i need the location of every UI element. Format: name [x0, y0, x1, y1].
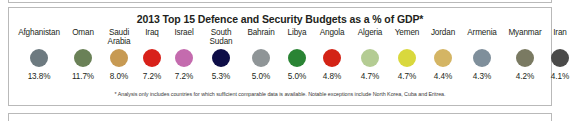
- country-name-label: Bahrain: [247, 28, 274, 47]
- country-value-dot: [252, 49, 270, 67]
- country-value-dot: [361, 49, 379, 67]
- country-column[interactable]: Myanmar4.2%: [503, 28, 547, 82]
- country-value-label: 4.1%: [551, 72, 569, 82]
- panel-below-sliver: [8, 113, 552, 121]
- country-value-dot: [398, 49, 416, 67]
- country-value-label: 13.8%: [28, 72, 51, 82]
- country-name-label: Libya: [288, 28, 307, 47]
- country-dot-slot: [74, 47, 92, 69]
- country-value-label: 11.7%: [72, 72, 94, 82]
- country-column[interactable]: Oman11.7%: [65, 28, 101, 82]
- country-name-label: Armenia: [467, 28, 496, 47]
- country-dot-slot: [398, 47, 416, 69]
- country-name-label: Angola: [320, 28, 345, 47]
- country-dot-slot: [212, 47, 230, 69]
- country-column[interactable]: South Sudan5.3%: [201, 28, 241, 82]
- country-value-label: 5.0%: [288, 72, 306, 82]
- country-name-label: Jordan: [431, 28, 455, 47]
- footnote-text: * Analysis only includes countries for w…: [9, 91, 551, 98]
- country-value-dot: [212, 49, 230, 67]
- country-column[interactable]: Algeria4.7%: [351, 28, 389, 82]
- country-name-label: Iraq: [145, 28, 159, 47]
- panel-above-sliver: [8, 0, 552, 3]
- country-value-label: 4.7%: [361, 72, 379, 82]
- country-value-label: 8.0%: [110, 72, 128, 82]
- country-column[interactable]: Jordan4.4%: [425, 28, 461, 82]
- country-dot-slot: [252, 47, 270, 69]
- country-dot-slot: [361, 47, 379, 69]
- defence-budgets-panel: 2013 Top 15 Defence and Security Budgets…: [8, 7, 552, 106]
- country-name-label: South Sudan: [201, 28, 241, 47]
- country-value-label: 5.3%: [212, 72, 230, 82]
- country-dot-slot: [143, 47, 161, 69]
- country-value-dot: [143, 49, 161, 67]
- country-value-dot: [516, 49, 534, 67]
- country-column[interactable]: Armenia4.3%: [461, 28, 503, 82]
- country-column[interactable]: Yemen4.7%: [389, 28, 425, 82]
- country-name-label: Myanmar: [508, 28, 541, 47]
- country-dot-slot: [551, 47, 569, 69]
- country-column[interactable]: Afghanistan13.8%: [13, 28, 65, 82]
- country-name-label: Saudi Arabia: [101, 28, 137, 47]
- country-value-label: 7.2%: [175, 72, 193, 82]
- page-title: 2013 Top 15 Defence and Security Budgets…: [9, 13, 551, 25]
- country-dot-slot: [110, 47, 128, 69]
- country-dot-slot: [473, 47, 491, 69]
- country-dot-slot: [175, 47, 193, 69]
- country-value-label: 4.8%: [323, 72, 341, 82]
- country-column[interactable]: Iran4.1%: [547, 28, 573, 82]
- country-dot-slot: [323, 47, 341, 69]
- country-name-label: Iran: [553, 28, 567, 47]
- country-value-label: 5.0%: [252, 72, 270, 82]
- country-value-label: 4.3%: [473, 72, 491, 82]
- country-value-dot: [175, 49, 193, 67]
- country-column[interactable]: Iraq7.2%: [137, 28, 167, 82]
- country-column[interactable]: Israel7.2%: [167, 28, 201, 82]
- country-name-label: Yemen: [395, 28, 419, 47]
- country-value-dot: [288, 49, 306, 67]
- country-value-dot: [30, 49, 48, 67]
- country-value-dot: [473, 49, 491, 67]
- country-columns: Afghanistan13.8%Oman11.7%Saudi Arabia8.0…: [13, 28, 549, 82]
- country-column[interactable]: Angola4.8%: [313, 28, 351, 82]
- country-value-dot: [434, 49, 452, 67]
- country-column[interactable]: Libya5.0%: [281, 28, 313, 82]
- country-value-label: 4.2%: [516, 72, 534, 82]
- country-dot-slot: [516, 47, 534, 69]
- country-value-dot: [551, 49, 569, 67]
- country-name-label: Israel: [174, 28, 193, 47]
- country-dot-slot: [30, 47, 48, 69]
- country-name-label: Oman: [72, 28, 94, 47]
- country-value-dot: [110, 49, 128, 67]
- country-column[interactable]: Bahrain5.0%: [241, 28, 281, 82]
- country-value-label: 4.7%: [398, 72, 416, 82]
- country-value-dot: [323, 49, 341, 67]
- country-column[interactable]: Saudi Arabia8.0%: [101, 28, 137, 82]
- country-value-dot: [74, 49, 92, 67]
- country-value-label: 4.4%: [434, 72, 452, 82]
- country-value-label: 7.2%: [143, 72, 161, 82]
- country-dot-slot: [434, 47, 452, 69]
- country-name-label: Algeria: [358, 28, 382, 47]
- country-name-label: Afghanistan: [18, 28, 60, 47]
- country-dot-slot: [288, 47, 306, 69]
